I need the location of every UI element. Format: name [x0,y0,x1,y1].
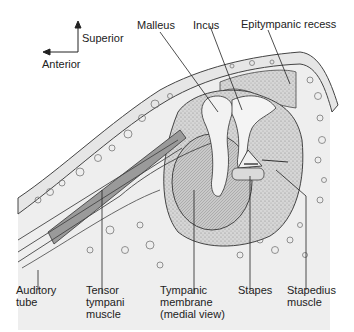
stapes-footplate [232,168,264,180]
label-stapes: Stapes [238,284,272,296]
orientation-compass [43,21,81,55]
label-tympanic-membrane: Tympanic membrane (medial view) [160,284,225,320]
orientation-anterior-label: Anterior [42,58,81,70]
label-incus: Incus [193,19,219,31]
label-malleus: Malleus [137,19,175,31]
label-stapedius-muscle: Stapedius muscle [287,284,336,308]
orientation-superior-label: Superior [82,32,124,44]
middle-ear-illustration [0,0,354,332]
label-epitympanic-recess: Epitympanic recess [241,18,336,30]
label-auditory-tube: Auditory tube [16,284,56,308]
label-tensor-tympani: Tensor tympani muscle [86,284,125,320]
